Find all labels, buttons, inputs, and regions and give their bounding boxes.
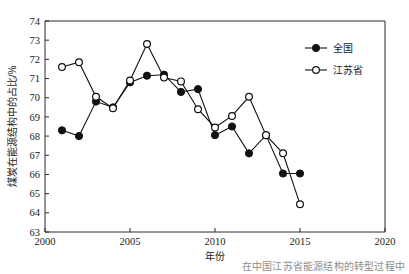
y-tick-label: 67 xyxy=(30,150,41,161)
legend-label-1: 江苏省 xyxy=(333,64,363,76)
data-point-1-2007 xyxy=(161,74,168,81)
data-point-1-2014 xyxy=(280,150,287,157)
y-tick-label: 66 xyxy=(30,169,41,180)
data-point-0-2014 xyxy=(279,170,286,177)
data-point-0-2008 xyxy=(177,88,184,95)
x-tick-label: 2015 xyxy=(290,236,311,247)
data-point-1-2003 xyxy=(93,93,100,100)
data-point-0-2002 xyxy=(75,132,82,139)
data-point-1-2006 xyxy=(144,41,151,48)
y-tick-label: 70 xyxy=(30,92,41,103)
data-point-1-2015 xyxy=(297,201,304,208)
data-point-0-2006 xyxy=(143,72,150,79)
data-point-0-2009 xyxy=(194,86,201,93)
y-tick-label: 65 xyxy=(30,188,41,199)
legend-label-0: 全国 xyxy=(333,42,353,54)
data-series xyxy=(58,41,303,208)
data-point-1-2011 xyxy=(229,113,236,120)
data-point-1-2008 xyxy=(178,78,185,85)
y-tick-label: 69 xyxy=(30,112,41,123)
legend-marker-0 xyxy=(312,44,319,51)
data-point-0-2012 xyxy=(245,150,252,157)
y-tick-label: 64 xyxy=(30,207,41,218)
chart-legend: 全国江苏省 xyxy=(305,42,363,76)
data-point-0-2011 xyxy=(228,123,235,130)
data-point-1-2012 xyxy=(246,93,253,100)
y-tick-label: 74 xyxy=(30,16,41,27)
y-tick-label: 73 xyxy=(30,35,41,46)
x-tick-label: 2000 xyxy=(35,236,56,247)
data-point-1-2009 xyxy=(195,106,202,113)
legend-marker-1 xyxy=(313,67,320,74)
y-axis-ticks: 636465666768697071727374 xyxy=(30,16,50,238)
data-point-1-2010 xyxy=(212,124,219,131)
caption-text: 在中国江苏省能源结构的转型过程中 xyxy=(242,258,405,273)
x-tick-label: 2010 xyxy=(205,236,226,247)
y-axis-title: 煤炭在能源结构中的占比/% xyxy=(6,66,18,188)
data-point-1-2013 xyxy=(263,132,270,139)
data-point-1-2005 xyxy=(127,77,134,84)
caption-strip: 在中国江苏省能源结构的转型过程中 xyxy=(0,252,409,274)
y-tick-label: 68 xyxy=(30,131,41,142)
line-chart: 636465666768697071727374 200020052010201… xyxy=(0,0,409,274)
series-line-1 xyxy=(62,44,300,204)
data-point-0-2015 xyxy=(296,170,303,177)
x-axis-ticks: 20002005201020152020 xyxy=(35,228,396,247)
data-point-1-2001 xyxy=(59,64,66,71)
data-point-0-2010 xyxy=(211,132,218,139)
data-point-0-2001 xyxy=(58,127,65,134)
chart-container: 636465666768697071727374 200020052010201… xyxy=(0,0,409,274)
y-tick-label: 72 xyxy=(30,54,41,65)
x-tick-label: 2005 xyxy=(120,236,141,247)
y-tick-label: 71 xyxy=(30,73,41,84)
data-point-1-2004 xyxy=(110,105,117,112)
data-point-1-2002 xyxy=(76,59,83,66)
x-tick-label: 2020 xyxy=(375,236,396,247)
